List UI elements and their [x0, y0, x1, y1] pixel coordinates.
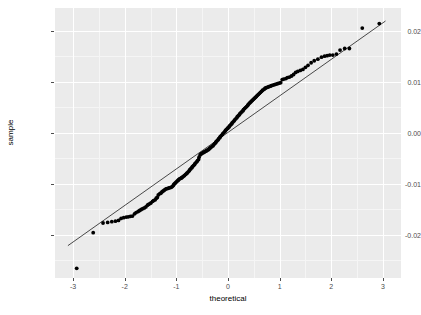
qq-point: [101, 221, 105, 225]
y-tick-mark: [51, 133, 54, 134]
qq-point: [343, 47, 347, 51]
x-tick-mark: [73, 278, 74, 281]
qq-point: [331, 53, 335, 57]
x-tick-label: 1: [260, 283, 300, 291]
qq-point: [309, 61, 313, 65]
qq-point: [91, 231, 95, 235]
y-tick-label: 0.02: [375, 27, 421, 34]
qq-point: [312, 59, 316, 63]
x-tick-mark: [383, 278, 384, 281]
qq-plot-figure: 0.020.010.00-0.01-0.02 -3-2-10123 theore…: [0, 0, 421, 315]
x-tick-mark: [176, 278, 177, 281]
qq-point: [347, 47, 351, 51]
x-tick-label: 3: [363, 283, 403, 291]
x-tick-mark: [125, 278, 126, 281]
x-tick-label: -3: [53, 283, 93, 291]
x-tick-mark: [280, 278, 281, 281]
qq-point: [316, 57, 320, 61]
y-tick-label: 0.00: [375, 129, 421, 136]
qq-point-group: [75, 22, 381, 271]
qq-point: [335, 52, 339, 56]
x-tick-label: 2: [311, 283, 351, 291]
qq-point: [75, 266, 79, 270]
y-tick-label: 0.01: [375, 78, 421, 85]
plot-panel: [55, 8, 401, 278]
x-axis-title: theoretical: [55, 294, 401, 303]
y-tick-label: -0.02: [375, 231, 421, 238]
y-tick-mark: [51, 82, 54, 83]
y-tick-mark: [51, 31, 54, 32]
x-tick-mark: [228, 278, 229, 281]
y-tick-label: -0.01: [375, 180, 421, 187]
qq-data-layer: [55, 8, 401, 278]
qq-point: [360, 26, 364, 30]
qq-point: [377, 22, 381, 26]
qq-point: [338, 48, 342, 52]
x-tick-label: 0: [208, 283, 248, 291]
qq-point: [306, 63, 310, 67]
y-tick-mark: [51, 235, 54, 236]
x-tick-label: -1: [156, 283, 196, 291]
x-tick-mark: [331, 278, 332, 281]
qq-point: [106, 221, 110, 225]
qq-point: [110, 220, 114, 224]
x-tick-label: -2: [105, 283, 145, 291]
y-axis-title: sample: [6, 103, 15, 163]
y-tick-mark: [51, 184, 54, 185]
